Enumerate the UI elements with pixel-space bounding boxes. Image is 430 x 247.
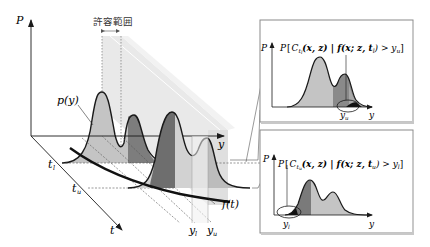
- f-of-t-label: f(t): [221, 198, 239, 211]
- main-p-axis-label: P: [15, 14, 24, 27]
- svg-text:l: l: [288, 224, 290, 230]
- t-upper-label: t u: [72, 182, 81, 196]
- y-lower-label: y l: [188, 224, 197, 238]
- main-diagram: P 許容範囲 p(y) y t f(t) t l t u y l y u: [15, 14, 262, 238]
- inset-bottom-y-label: y: [368, 219, 375, 229]
- y-upper-label: y u: [206, 224, 217, 238]
- inset-top: P P[Ctl(x, z) | f(x; z, tl) > yu] y u y: [260, 20, 414, 123]
- inset-top-p-label: P: [260, 43, 268, 53]
- density-label: p(y): [57, 94, 79, 107]
- svg-text:u: u: [77, 188, 81, 196]
- main-t-axis-label: t: [110, 224, 115, 237]
- inset-bottom: P P[Ctu(x, z) | f(x; z, tu) > yl] y l y: [260, 130, 414, 234]
- svg-text:l: l: [53, 164, 55, 172]
- connector-top: [230, 110, 260, 160]
- svg-text:u: u: [345, 115, 349, 121]
- diagram-canvas: P 許容範囲 p(y) y t f(t) t l t u y l y u: [0, 0, 430, 247]
- inset-top-y-label: y: [368, 110, 375, 120]
- svg-text:u: u: [213, 230, 217, 238]
- svg-text:l: l: [195, 230, 197, 238]
- tolerance-label: 許容範囲: [93, 16, 133, 27]
- inset-bottom-p-label: P: [262, 154, 270, 164]
- main-y-axis-label: y: [217, 138, 225, 151]
